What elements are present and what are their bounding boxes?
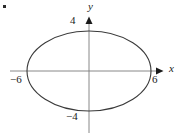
y-tick-label-bottom: −4 [66, 111, 78, 122]
y-tick-label-top: 4 [70, 15, 76, 26]
x-tick-label-right: 6 [152, 74, 158, 85]
y-axis-label: y [88, 1, 93, 12]
x-tick-label-left: −6 [10, 74, 22, 85]
x-axis-label: x [169, 63, 174, 74]
coordinate-plot [0, 0, 180, 133]
ellipse-figure-panel: y x 4 −4 −6 6 [0, 0, 180, 133]
y-axis-arrowhead-icon [86, 17, 93, 25]
